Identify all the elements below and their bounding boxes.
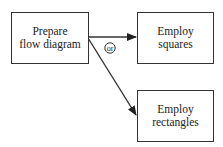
node-label-line2: rectangles	[152, 116, 199, 129]
node-employ-squares: Employ squares	[137, 12, 214, 64]
or-label: or	[104, 42, 116, 54]
node-prepare-flow-diagram: Prepare flow diagram	[11, 12, 89, 64]
node-label-line1: Employ	[157, 25, 193, 38]
node-label-line2: flow diagram	[19, 38, 81, 51]
node-label-line1: Prepare	[19, 25, 81, 38]
node-label-line2: squares	[157, 38, 193, 51]
node-label-line1: Employ	[152, 103, 199, 116]
node-employ-rectangles: Employ rectangles	[137, 90, 214, 142]
